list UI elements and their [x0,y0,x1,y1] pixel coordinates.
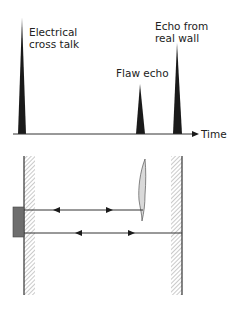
wall-echo-label-1: Echo from [155,20,208,32]
time-axis-label: Time [200,128,227,140]
flaw-shape [139,159,146,221]
cross-talk-label-2: cross talk [29,38,80,50]
right-wall [171,156,182,295]
arrow-left-icon [53,207,60,213]
time-axis-arrow-icon [192,131,199,137]
wall-echo-peak [173,43,182,134]
flaw-echo-path [24,207,143,213]
flaw-echo-peak [136,84,145,134]
arrow-left-icon [75,230,82,236]
ultrasonic-diagram: Electrical cross talk Flaw echo Echo fro… [0,0,233,309]
wall-echo-path [24,230,182,236]
flaw-echo-label: Flaw echo [116,67,169,79]
transducer [13,207,24,237]
a-scan-plot: Electrical cross talk Flaw echo Echo fro… [13,18,227,140]
arrow-right-icon [128,230,135,236]
setup-diagram [13,156,182,295]
arrow-right-icon [106,207,113,213]
cross-talk-peak [18,18,26,134]
cross-talk-label-1: Electrical [29,26,77,38]
left-wall [24,156,35,295]
wall-echo-label-2: real wall [155,32,199,44]
